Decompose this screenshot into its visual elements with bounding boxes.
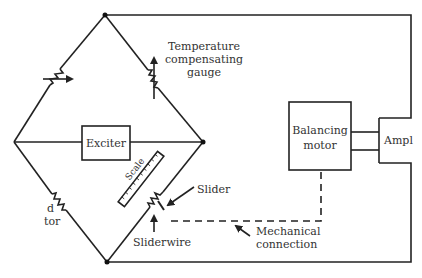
- node-top: [103, 13, 108, 18]
- mechanical-label-2: connection: [256, 238, 317, 251]
- sliderwire-label: Sliderwire: [133, 236, 191, 249]
- temperature-gauge-label-3: gauge: [187, 66, 221, 79]
- temperature-gauge-label-2: compensating: [165, 53, 243, 66]
- mechanical-connection-arrow: [236, 226, 250, 236]
- mechanical-label-1: Mechanical: [256, 225, 321, 238]
- slider-label: Slider: [197, 183, 231, 196]
- temperature-gauge-label-1: Temperature: [168, 40, 240, 53]
- exciter-label: Exciter: [86, 137, 127, 150]
- slider-contact: [158, 201, 164, 210]
- amplifier-label: Ampl: [383, 134, 413, 147]
- motor-amp-connections: [351, 132, 379, 150]
- node-right: [201, 140, 206, 145]
- balancing-motor-label-1: Balancing: [292, 124, 348, 137]
- gauge-partial-label-2: tor: [44, 215, 61, 228]
- slider-pointer-arrow: [168, 187, 194, 205]
- node-bottom: [105, 260, 110, 265]
- amplifier-top-wire: [105, 15, 411, 118]
- balancing-motor-label-2: motor: [303, 139, 337, 152]
- gauge-partial-label-1: d: [47, 202, 54, 215]
- bridge-diagram: Scale Exciter Ampl Balancing motor Mecha…: [0, 0, 422, 278]
- mechanical-connection-line: [170, 172, 321, 221]
